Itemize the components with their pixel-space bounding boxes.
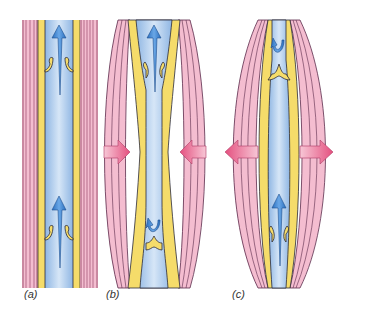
panel-label-b: (b) xyxy=(106,288,119,300)
panel-label-c: (c) xyxy=(232,288,245,300)
muscle-left-a xyxy=(22,20,38,288)
venous-valve-diagram xyxy=(0,0,368,326)
panel-label-a: (a) xyxy=(24,288,37,300)
panel-a xyxy=(22,20,98,288)
panel-b xyxy=(104,20,206,288)
panel-c xyxy=(225,20,333,288)
muscle-right-a xyxy=(80,20,98,288)
